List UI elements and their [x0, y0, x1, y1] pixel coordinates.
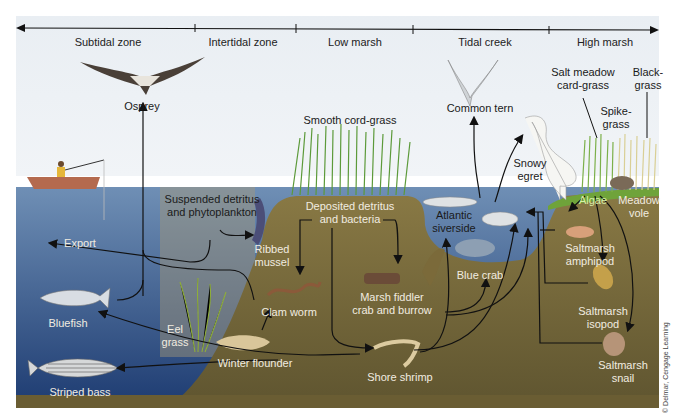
copyright-credit: © Delmar, Cengage Learning: [662, 322, 669, 413]
label-clam-worm: Clam worm: [254, 306, 324, 318]
label-ribbed-mussel-2: mussel: [250, 256, 294, 268]
fiddler-crab-art: [364, 273, 400, 284]
label-ribbed-mussel-1: Ribbed: [250, 243, 294, 255]
label-atlantic-silverside-2: siverside: [424, 222, 484, 234]
amphipod-art: [566, 226, 594, 238]
label-meadow-vole-1: Meadow: [614, 194, 664, 206]
label-suspended-detritus-2: and phytoplankton: [152, 206, 272, 218]
label-suspended-detritus-1: Suspended detritus: [152, 193, 272, 205]
smooth-cord-grass-art: [292, 124, 410, 195]
osprey-art: [80, 57, 205, 95]
label-blue-crab: Blue crab: [450, 269, 510, 281]
label-shore-shrimp: Shore shrimp: [360, 371, 440, 383]
label-salt-meadow-2: card-grass: [543, 79, 623, 91]
label-algae: Algae: [573, 194, 613, 206]
label-black-grass-2: grass: [628, 79, 668, 91]
label-striped-bass: Striped bass: [40, 386, 120, 398]
label-common-tern: Common tern: [440, 102, 520, 114]
zone-high-marsh: High marsh: [560, 36, 650, 48]
label-smooth-cord-grass: Smooth cord-grass: [295, 114, 405, 126]
blue-crab-art: [455, 239, 495, 257]
zone-intertidal: Intertidal zone: [193, 36, 293, 48]
label-eel-grass-1: Eel: [160, 323, 190, 335]
label-spike-grass-1: Spike-: [596, 105, 636, 117]
food-web-diagram: Subtidal zone Intertidal zone Low marsh …: [0, 0, 678, 419]
atlantic-silverside-art: [423, 197, 477, 207]
label-meadow-vole-2: vole: [614, 207, 664, 219]
snail-art: [603, 332, 625, 356]
label-amphipod-1: Saltmarsh: [555, 242, 625, 254]
label-salt-meadow-1: Salt meadow: [543, 66, 623, 78]
label-snowy-egret-2: egret: [508, 170, 552, 182]
label-black-grass-1: Black-: [628, 66, 668, 78]
small-fish-art: [482, 212, 518, 226]
label-bluefish: Bluefish: [38, 317, 98, 329]
label-snail-2: snail: [588, 372, 658, 384]
zone-tidal-creek: Tidal creek: [440, 36, 530, 48]
zone-subtidal: Subtidal zone: [58, 36, 158, 48]
label-snail-1: Saltmarsh: [588, 359, 658, 371]
label-fiddler-crab-2: crab and burrow: [340, 304, 444, 316]
label-eel-grass-2: grass: [158, 336, 192, 348]
label-fiddler-crab-1: Marsh fiddler: [340, 291, 444, 303]
zone-axis: [16, 24, 659, 34]
label-deposited-detritus-2: and bacteria: [295, 213, 405, 225]
label-deposited-detritus-1: Deposited detritus: [295, 200, 405, 212]
meadow-vole-art: [610, 176, 634, 190]
label-amphipod-2: amphipod: [555, 255, 625, 267]
label-isopod-1: Saltmarsh: [568, 305, 638, 317]
label-atlantic-silverside-1: Atlantic: [424, 209, 484, 221]
label-isopod-2: isopod: [568, 318, 638, 330]
label-spike-grass-2: grass: [596, 118, 636, 130]
label-winter-flounder: Winter flounder: [210, 357, 300, 369]
common-tern-art: [448, 60, 498, 106]
label-export: Export: [60, 237, 100, 249]
label-snowy-egret-1: Snowy: [508, 157, 552, 169]
zone-low-marsh: Low marsh: [310, 36, 400, 48]
label-osprey: Osprey: [112, 100, 172, 112]
